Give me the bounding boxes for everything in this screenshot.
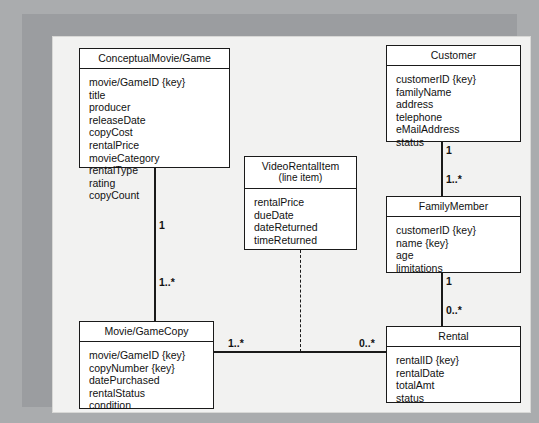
attribute-item: address: [396, 98, 520, 111]
attribute-item: customerID {key}: [396, 224, 520, 237]
attribute-item: rentalPrice: [89, 139, 229, 152]
class-attributes-rental: rentalID {key} rentalDate totalAmt statu…: [387, 347, 520, 411]
attribute-item: condition: [89, 399, 213, 412]
attribute-item: customerID {key}: [396, 73, 520, 86]
attribute-item: eMailAddress: [396, 123, 520, 136]
class-title-family-member: FamilyMember: [387, 197, 520, 217]
attribute-item: status: [396, 392, 520, 405]
class-name-conceptual-movie-game: ConceptualMovie/Game: [98, 52, 211, 64]
class-box-movie-game-copy[interactable]: Movie/GameCopy movie/GameID {key} copyNu…: [79, 321, 214, 409]
class-name-family-member: FamilyMember: [419, 200, 488, 212]
class-name-movie-game-copy: Movie/GameCopy: [104, 325, 188, 337]
class-box-video-rental-item[interactable]: VideoRentalItem (line item) rentalPrice …: [244, 156, 357, 250]
attribute-item: movie/GameID {key}: [89, 349, 213, 362]
class-title-customer: Customer: [387, 46, 520, 66]
attribute-item: copyCost: [89, 126, 229, 139]
attribute-item: rentalDate: [396, 367, 520, 380]
multiplicity-customer-to-family-bottom: 1..*: [446, 173, 462, 185]
attribute-item: releaseDate: [89, 114, 229, 127]
class-title-conceptual-movie-game: ConceptualMovie/Game: [80, 49, 229, 69]
class-title-rental: Rental: [387, 327, 520, 347]
attribute-item: rating: [89, 177, 229, 190]
attribute-item: name {key}: [396, 237, 520, 250]
attribute-item: rentalID {key}: [396, 354, 520, 367]
attribute-item: movieCategory: [89, 152, 229, 165]
diagram-frame: 1 1..* 1 1..* 1 0..* 1..* 0..* Conceptua…: [22, 14, 517, 407]
attribute-item: timeReturned: [254, 234, 356, 247]
class-title-video-rental-item: VideoRentalItem (line item): [245, 157, 356, 189]
multiplicity-copy-to-rental-right: 0..*: [359, 337, 375, 349]
attribute-item: rentalPrice: [254, 196, 356, 209]
diagram-canvas: 1 1..* 1 1..* 1 0..* 1..* 0..* Conceptua…: [52, 36, 531, 413]
attribute-item: rentalStatus: [89, 387, 213, 400]
multiplicity-copy-to-rental-left: 1..*: [228, 337, 244, 349]
class-attributes-movie-game-copy: movie/GameID {key} copyNumber {key} date…: [80, 342, 213, 419]
class-attributes-video-rental-item: rentalPrice dueDate dateReturned timeRet…: [245, 189, 356, 253]
class-attributes-family-member: customerID {key} name {key} age limitati…: [387, 217, 520, 281]
attribute-item: datePurchased: [89, 374, 213, 387]
class-box-customer[interactable]: Customer customerID {key} familyName add…: [386, 45, 521, 142]
class-name-rental: Rental: [438, 330, 468, 342]
class-title-movie-game-copy: Movie/GameCopy: [80, 322, 213, 342]
class-name-customer: Customer: [431, 49, 477, 61]
attribute-item: totalAmt: [396, 379, 520, 392]
class-name-video-rental-item: VideoRentalItem: [262, 160, 339, 172]
attribute-item: limitations: [396, 262, 520, 275]
attribute-item: age: [396, 249, 520, 262]
attribute-item: copyCount: [89, 189, 229, 202]
class-box-conceptual-movie-game[interactable]: ConceptualMovie/Game movie/GameID {key} …: [79, 48, 230, 168]
attribute-item: producer: [89, 101, 229, 114]
attribute-item: familyName: [396, 86, 520, 99]
multiplicity-conceptual-to-copy-bottom: 1..*: [159, 276, 175, 288]
class-box-family-member[interactable]: FamilyMember customerID {key} name {key}…: [386, 196, 521, 273]
attribute-item: status: [396, 136, 520, 149]
attribute-item: telephone: [396, 111, 520, 124]
multiplicity-conceptual-to-copy-top: 1: [159, 219, 165, 231]
multiplicity-family-to-rental-bottom: 0..*: [446, 304, 462, 316]
attribute-item: dateReturned: [254, 221, 356, 234]
attribute-item: title: [89, 89, 229, 102]
attribute-item: movie/GameID {key}: [89, 76, 229, 89]
attribute-item: rentalType: [89, 164, 229, 177]
class-box-rental[interactable]: Rental rentalID {key} rentalDate totalAm…: [386, 326, 521, 403]
attribute-item: dueDate: [254, 209, 356, 222]
attribute-item: copyNumber {key}: [89, 362, 213, 375]
class-attributes-conceptual-movie-game: movie/GameID {key} title producer releas…: [80, 69, 229, 209]
class-attributes-customer: customerID {key} familyName address tele…: [387, 66, 520, 156]
association-class-dashed-link: [300, 250, 301, 352]
class-stereotype-video-rental-item: (line item): [247, 172, 354, 184]
